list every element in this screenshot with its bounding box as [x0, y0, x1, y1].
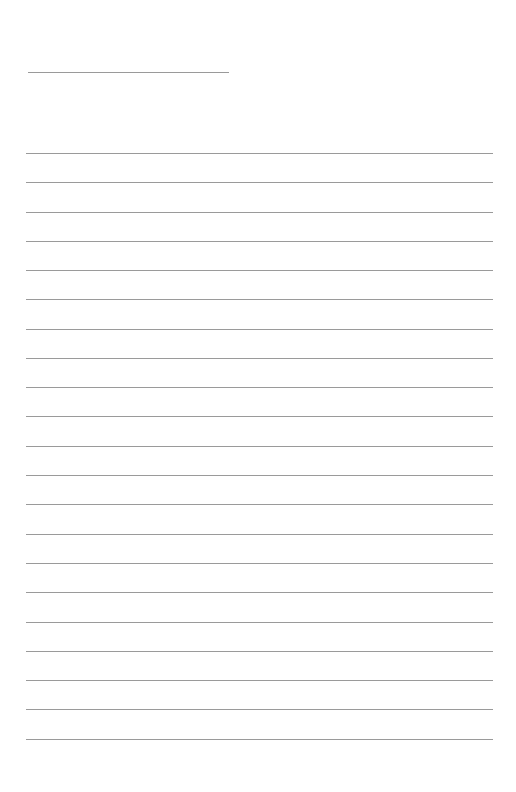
writing-line — [26, 153, 493, 154]
header-rule-line — [28, 72, 229, 73]
writing-line — [26, 212, 493, 213]
writing-line — [26, 387, 493, 388]
writing-line — [26, 504, 493, 505]
writing-line — [26, 299, 493, 300]
writing-line — [26, 709, 493, 710]
writing-line — [26, 241, 493, 242]
writing-line — [26, 592, 493, 593]
writing-line — [26, 475, 493, 476]
writing-line — [26, 329, 493, 330]
writing-line — [26, 182, 493, 183]
writing-line — [26, 534, 493, 535]
writing-line — [26, 563, 493, 564]
writing-line — [26, 622, 493, 623]
writing-line — [26, 739, 493, 740]
writing-line — [26, 651, 493, 652]
writing-line — [26, 446, 493, 447]
writing-line — [26, 358, 493, 359]
writing-line — [26, 270, 493, 271]
lined-page — [0, 0, 516, 792]
writing-line — [26, 416, 493, 417]
writing-line — [26, 680, 493, 681]
